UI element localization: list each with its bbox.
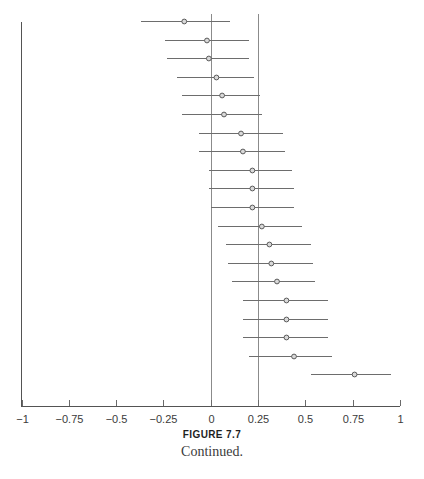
- forest-row: [228, 261, 313, 266]
- estimate-marker: [214, 75, 219, 80]
- plot-ci-rows: [141, 19, 391, 377]
- x-tick-label: −0.5: [106, 413, 128, 424]
- forest-row: [243, 298, 328, 303]
- forest-row: [165, 38, 248, 43]
- forest-row: [243, 335, 328, 340]
- forest-row: [182, 112, 261, 117]
- estimate-marker: [250, 168, 255, 173]
- estimate-marker: [250, 205, 255, 210]
- estimate-marker: [250, 186, 255, 191]
- caption-subtitle: Continued.: [0, 443, 424, 461]
- estimate-marker: [269, 261, 274, 266]
- x-tick-label: 0.5: [298, 413, 313, 424]
- forest-row: [141, 19, 230, 24]
- caption-title: FIGURE 7.7: [0, 428, 424, 441]
- forest-row: [177, 75, 255, 80]
- estimate-marker: [292, 354, 297, 359]
- forest-row: [232, 279, 315, 284]
- x-tick-label: 0: [208, 413, 214, 424]
- plot-axes: [21, 22, 400, 407]
- forest-row: [209, 186, 294, 191]
- estimate-marker: [182, 19, 187, 24]
- x-tick-label: 0.75: [343, 413, 364, 424]
- estimate-marker: [220, 93, 225, 98]
- forest-row: [311, 372, 390, 377]
- forest-row: [211, 205, 294, 210]
- estimate-marker: [284, 335, 289, 340]
- forest-row: [209, 168, 292, 173]
- estimate-marker: [241, 149, 246, 154]
- x-tick-label: 0.25: [248, 413, 269, 424]
- x-tick-label: 1: [397, 413, 403, 424]
- estimate-marker: [284, 298, 289, 303]
- x-tick-label: −0.75: [56, 413, 84, 424]
- estimate-marker: [352, 372, 357, 377]
- forest-row: [218, 224, 301, 229]
- x-tick-label: −1: [16, 413, 29, 424]
- estimate-marker: [222, 112, 227, 117]
- x-tick-label: −0.25: [150, 413, 178, 424]
- forest-row: [167, 56, 248, 61]
- x-axis-ticks: [23, 400, 401, 406]
- estimate-marker: [267, 242, 272, 247]
- forest-row: [243, 317, 328, 322]
- estimate-marker: [259, 224, 264, 229]
- estimate-marker: [275, 279, 280, 284]
- x-axis-tick-labels: −1−0.75−0.5−0.2500.250.50.751: [16, 413, 403, 424]
- estimate-marker: [206, 56, 211, 61]
- forest-row: [199, 149, 284, 154]
- figure-caption: FIGURE 7.7 Continued.: [0, 428, 424, 462]
- forest-row: [249, 354, 332, 359]
- forest-row: [226, 242, 311, 247]
- estimate-marker: [205, 38, 210, 43]
- estimate-marker: [239, 131, 244, 136]
- forest-plot: −1−0.75−0.5−0.2500.250.50.751: [0, 0, 424, 424]
- figure-container: −1−0.75−0.5−0.2500.250.50.751 FIGURE 7.7…: [0, 0, 424, 479]
- forest-row: [182, 93, 260, 98]
- estimate-marker: [284, 317, 289, 322]
